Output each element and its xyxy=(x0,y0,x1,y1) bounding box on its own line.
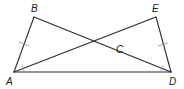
segment-ae xyxy=(14,17,156,72)
segment-ab xyxy=(14,17,34,72)
label-b: B xyxy=(31,3,38,14)
label-e: E xyxy=(152,3,159,14)
label-c: C xyxy=(116,44,124,55)
label-a: A xyxy=(5,76,13,87)
label-d: D xyxy=(169,76,176,87)
segment-bd xyxy=(34,17,171,72)
geometry-diagram: B E C A D xyxy=(0,0,184,89)
